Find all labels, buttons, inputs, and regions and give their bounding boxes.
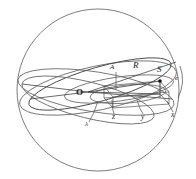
point-S-marker [158,79,162,83]
label-point-S: S [157,65,162,74]
label-axis-y: y [141,113,144,121]
label-axis-z: z [112,113,115,121]
label-axis-x: x [171,111,174,119]
figure-canvas [0,0,196,179]
label-radius-vector-R: R [133,61,139,70]
label-origin-O: O [76,88,83,97]
ray-radius-vector-R [88,81,160,92]
label-angle-e: e [175,75,178,82]
celestial-sphere-figure: O A R S e λ z y x [0,0,196,179]
label-angle-lambda: λ [85,121,88,128]
label-angle-A: A [110,64,114,71]
